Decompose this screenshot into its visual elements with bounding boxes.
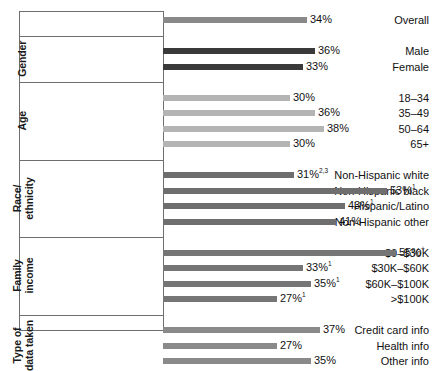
group-separator (19, 36, 164, 37)
bar (163, 203, 345, 209)
group-separator (19, 315, 164, 316)
bar-value-footnote: 1 (328, 260, 332, 267)
bar (163, 17, 307, 23)
bar (163, 343, 277, 349)
bar-value-label: 30% (293, 138, 315, 149)
bar-value-label: 43%1 (348, 200, 374, 211)
bar-value-footnote: + (421, 245, 425, 252)
bar (163, 281, 311, 287)
bar-value-label: 33% (306, 61, 328, 72)
bar (163, 95, 290, 101)
bar (163, 48, 315, 54)
bar (163, 327, 320, 333)
bar-value-label: 36% (318, 107, 340, 118)
bar (163, 219, 336, 225)
group-separator (19, 82, 164, 83)
bar-value-label: 30% (293, 92, 315, 103)
bar-value-label: 27% (280, 340, 302, 351)
category-label: 18–34 (299, 92, 429, 104)
bar (163, 141, 290, 147)
bar-value-label: 55%+ (399, 247, 425, 258)
bar-value-label: 37% (323, 324, 345, 335)
bar (163, 358, 311, 364)
bar (163, 250, 396, 256)
bar (163, 172, 294, 178)
bar-value-footnote: 1 (412, 183, 416, 190)
bar-value-footnote: 1 (302, 291, 306, 298)
category-label: 65+ (299, 138, 429, 150)
group-separator (19, 237, 164, 238)
bar (163, 296, 277, 302)
bar-value-label: 33%1 (306, 262, 332, 273)
category-label-frame (19, 11, 164, 331)
bar (163, 126, 324, 132)
bar-value-label: 34% (310, 14, 332, 25)
bar-value-footnote: 2,3 (319, 167, 328, 174)
bar-value-label: 27%1 (280, 293, 306, 304)
bar-value-footnote: 1 (370, 198, 374, 205)
bar-value-label: 31%2,3 (297, 169, 328, 180)
bar (163, 188, 387, 194)
bar (163, 265, 303, 271)
bar-value-label: 53%1 (390, 185, 416, 196)
bar (163, 110, 315, 116)
bar (163, 64, 303, 70)
bar-value-label: 38% (327, 123, 349, 134)
bar-value-label: 35% (314, 355, 336, 366)
bar-value-label: 36% (318, 45, 340, 56)
category-label: >$100K (299, 293, 429, 305)
bar-value-label: 35%1 (314, 278, 340, 289)
category-label: Health info (299, 340, 429, 352)
group-separator (19, 160, 164, 161)
bar-value-label: 41% (339, 216, 361, 227)
bar-value-footnote: 1 (336, 276, 340, 283)
